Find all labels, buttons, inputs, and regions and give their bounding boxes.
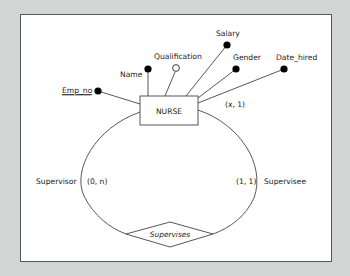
emp-no-dot-icon [94,87,101,94]
attribute-emp-no-label: Emp_no [62,86,93,95]
qualification-connector [165,72,175,96]
qualification-hollow-dot-icon [173,65,180,72]
attribute-name-label: Name [120,70,143,79]
emp-no-connector [98,91,140,104]
attribute-salary-label: Salary [216,29,240,38]
role-supervisee-label: Supervisee [264,177,306,186]
er-diagram: NURSE Emp_no Name Qualification Salary G… [0,0,350,276]
attribute-qualification-label: Qualification [154,52,202,61]
supervisee-cardinality-label: (1, 1) [236,177,256,186]
supervisor-role-line [81,112,140,234]
entity-cardinality-label: (x, 1) [225,100,245,109]
attribute-gender-label: Gender [233,53,262,62]
gender-dot-icon [232,65,239,72]
role-supervisor-label: Supervisor [36,177,77,186]
supervisee-role-line [198,110,257,234]
supervisor-cardinality-label: (0, n) [87,177,107,186]
name-dot-icon [144,65,151,72]
salary-dot-icon [223,41,230,48]
entity-nurse-label: NURSE [156,107,182,116]
date-hired-connector [198,69,284,103]
attribute-date-hired-label: Date_hired [276,53,317,62]
date-hired-dot-icon [280,65,287,72]
relationship-supervises-label: Supervises [150,230,190,239]
